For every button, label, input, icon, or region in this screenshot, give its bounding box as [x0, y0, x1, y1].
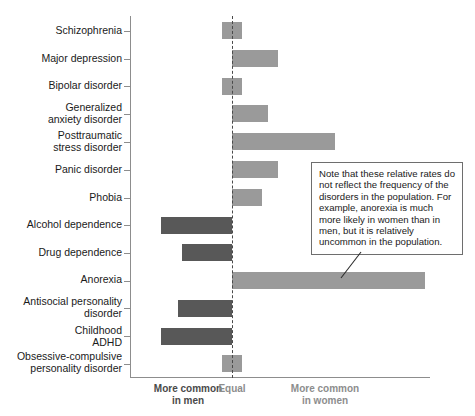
- bar-anorexia: [232, 272, 425, 289]
- bar-posttraumatic-stress-disorder: [232, 133, 335, 150]
- bar-panic-disorder: [232, 161, 278, 178]
- category-label-schizophrenia: Schizophrenia: [4, 25, 122, 37]
- chart-figure: Schizophrenia Major depression Bipolar d…: [0, 0, 475, 416]
- bar-major-depression: [232, 50, 278, 67]
- category-label-column: Schizophrenia Major depression Bipolar d…: [0, 0, 122, 378]
- annotation-leader-line: [333, 252, 363, 280]
- category-label-panic-disorder: Panic disorder: [4, 164, 122, 176]
- y-axis-tick: [124, 336, 130, 337]
- x-axis-caption-equal: Equal: [203, 383, 261, 395]
- bar-generalized-anxiety-disorder: [232, 105, 268, 122]
- bar-childhood-adhd: [161, 328, 232, 345]
- bar-drug-dependence: [182, 244, 232, 261]
- annotation-callout: Note that these relative rates do not re…: [311, 162, 463, 255]
- category-label-major-depression: Major depression: [4, 53, 122, 65]
- bar-phobia: [232, 189, 262, 206]
- y-axis-tick: [124, 59, 130, 60]
- equal-reference-line: [232, 16, 233, 378]
- category-label-anorexia: Anorexia: [4, 274, 122, 286]
- bar-antisocial-personality-disorder: [178, 300, 232, 317]
- y-axis-tick: [124, 364, 130, 365]
- y-axis-tick: [124, 170, 130, 171]
- category-label-drug-dependence: Drug dependence: [4, 247, 122, 259]
- category-label-posttraumatic-stress-disorder: Posttraumatic stress disorder: [4, 130, 122, 153]
- y-axis-tick: [124, 114, 130, 115]
- category-label-obsessive-compulsive-personality-disorder: Obsessive-compulsive personality disorde…: [4, 351, 122, 374]
- y-axis-tick: [124, 281, 130, 282]
- category-label-antisocial-personality-disorder: Antisocial personality disorder: [4, 296, 122, 319]
- y-axis-tick: [124, 142, 130, 143]
- bar-alcohol-dependence: [161, 217, 232, 234]
- category-label-alcohol-dependence: Alcohol dependence: [4, 219, 122, 231]
- y-axis-tick: [124, 308, 130, 309]
- x-axis-line: [130, 377, 430, 378]
- y-axis-tick: [124, 31, 130, 32]
- category-label-phobia: Phobia: [4, 192, 122, 204]
- y-axis-tick: [124, 253, 130, 254]
- category-label-childhood-adhd: Childhood ADHD: [4, 325, 122, 348]
- category-label-bipolar-disorder: Bipolar disorder: [4, 80, 122, 92]
- x-axis-caption-more-common-in-women: More common in women: [265, 383, 385, 406]
- y-axis-tick: [124, 225, 130, 226]
- category-label-generalized-anxiety-disorder: Generalized anxiety disorder: [4, 102, 122, 125]
- y-axis-line: [130, 16, 131, 378]
- y-axis-tick: [124, 86, 130, 87]
- y-axis-tick: [124, 198, 130, 199]
